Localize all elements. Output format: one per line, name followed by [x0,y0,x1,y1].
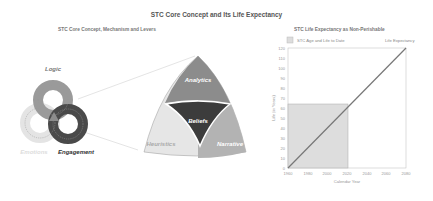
svg-text:50: 50 [281,116,286,121]
svg-text:30: 30 [281,136,286,141]
svg-text:2080: 2080 [402,171,412,176]
core-concept-diagram: Logic Emotions Engagement Analytics Beli… [0,0,270,201]
venn-diagram: Logic Emotions Engagement [20,66,95,155]
narrative-label: Narrative [217,141,244,147]
legend-label-area: STC Age and Life to Date [297,38,345,43]
svg-text:100: 100 [278,66,285,71]
svg-text:2000: 2000 [323,171,333,176]
y-axis-label: Life (in Years) [271,95,276,121]
logic-label: Logic [45,66,62,72]
life-expectancy-chart: STC Age and Life to Date Life Expectancy… [270,30,433,201]
svg-text:2020: 2020 [343,171,353,176]
emotions-label: Emotions [20,149,48,155]
svg-text:80: 80 [281,86,286,91]
x-axis: 196019802000 202020402060 2080 [284,171,412,176]
levers-triangle: Analytics Beliefs Heuristics Narrative [144,56,246,158]
svg-text:2040: 2040 [363,171,373,176]
connector-line [78,130,138,150]
svg-text:90: 90 [281,76,286,81]
svg-text:2060: 2060 [382,171,392,176]
beliefs-label: Beliefs [188,118,208,124]
analytics-label: Analytics [184,77,212,83]
engagement-label: Engagement [58,149,95,155]
heuristics-label: Heuristics [146,141,176,147]
legend-label-line: Life Expectancy [385,38,415,43]
x-axis-label: Calendar Year [334,179,361,184]
svg-text:20: 20 [281,146,286,151]
svg-text:60: 60 [281,106,286,111]
legend-swatch-area [287,37,293,43]
svg-text:0: 0 [283,166,286,171]
svg-text:10: 10 [281,156,286,161]
y-axis: 01020 304050 607080 90100110 120 [278,46,285,171]
svg-text:120: 120 [278,46,285,51]
svg-text:1960: 1960 [284,171,294,176]
svg-text:70: 70 [281,96,286,101]
svg-text:40: 40 [281,126,286,131]
svg-text:1980: 1980 [304,171,314,176]
svg-text:110: 110 [279,56,286,61]
